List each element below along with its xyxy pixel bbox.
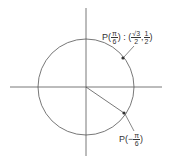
numerator: √3 <box>131 30 141 38</box>
label-p-pi-6: P(π6) : (√32,12) <box>102 30 153 45</box>
label-p-neg-pi-6: P(−π6) <box>119 132 143 147</box>
leader-line-bottom <box>125 114 134 131</box>
label-text: P(− <box>119 134 133 144</box>
label-text: P( <box>102 32 111 42</box>
label-text: ) <box>140 134 143 144</box>
leader-line-top <box>124 46 134 57</box>
label-text: ) <box>150 32 153 42</box>
fraction: √32 <box>131 30 141 45</box>
denominator: 6 <box>111 38 118 45</box>
unit-circle-diagram <box>0 0 170 164</box>
denominator: 2 <box>131 38 141 45</box>
radius-line <box>86 87 124 113</box>
label-text: ) : ( <box>118 32 132 42</box>
numerator: π <box>111 30 118 38</box>
fraction: π6 <box>111 30 118 45</box>
